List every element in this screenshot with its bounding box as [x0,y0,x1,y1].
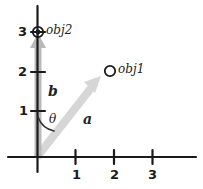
obj1-marker [105,66,115,76]
x-tick-label-3: 3 [148,168,157,181]
y-tick-label-1: 1 [19,104,28,117]
obj2-label: obj2 [46,24,72,36]
vector-b-label: b [48,84,58,98]
diagram-canvas [0,0,203,189]
vector-diagram-figure: 3 2 1 1 2 3 obj2 obj1 b a θ [0,0,203,189]
y-tick-label-2: 2 [18,65,27,78]
theta-label: θ [49,113,56,125]
y-tick-label-3: 3 [18,25,27,38]
obj2-marker-dot [36,30,41,35]
vector-a-label: a [83,112,92,126]
x-tick-label-2: 2 [110,168,119,181]
x-tick-label-1: 1 [72,168,81,181]
obj1-label: obj1 [118,63,144,75]
